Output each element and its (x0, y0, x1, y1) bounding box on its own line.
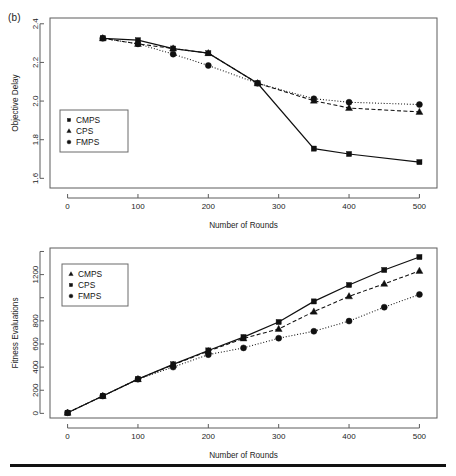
data-point-circle (241, 345, 247, 351)
data-point-square (417, 160, 422, 165)
legend-marker-cmps (67, 118, 70, 121)
data-point-triangle (416, 267, 423, 273)
y-tick-label: 2.4 (32, 18, 41, 30)
data-point-circle (346, 318, 352, 324)
x-tick-label: 500 (413, 432, 427, 441)
data-point-triangle (381, 280, 388, 286)
data-point-circle (311, 328, 317, 334)
data-point-square (276, 319, 281, 324)
y-tick-label: 0 (32, 411, 41, 416)
y-tick-label: 1.6 (32, 172, 41, 184)
data-point-square (346, 151, 351, 156)
data-point-square (67, 118, 70, 121)
legend-label-cmps: CMPS (78, 269, 103, 279)
data-point-circle (416, 102, 422, 108)
y-axis-title: Fitness Evaluations (11, 298, 20, 369)
x-tick-label: 200 (202, 202, 216, 211)
y-tick-label: 200 (32, 383, 41, 397)
x-tick-label: 400 (342, 432, 356, 441)
y-tick-label: 600 (32, 337, 41, 351)
y-tick-label: 400 (32, 360, 41, 374)
x-tick-label: 100 (131, 202, 145, 211)
y-tick-label: 2.2 (32, 56, 41, 68)
data-point-square (241, 334, 246, 339)
data-point-square (311, 146, 316, 151)
x-tick-label: 0 (65, 202, 70, 211)
legend-label-cps: CPS (76, 126, 94, 136)
x-tick-label: 300 (272, 202, 286, 211)
data-point-circle (65, 410, 71, 416)
legend-label-fmps: FMPS (76, 137, 100, 147)
series-markers-fmps (100, 35, 423, 107)
chart-panel-objective-delay: (b) 1.61.82.02.22.40100200300400500Numbe… (0, 0, 456, 238)
legend-marker-fmps (67, 140, 71, 144)
fitness-evaluations-chart: 020040060080012000100200300400500Number … (0, 238, 456, 476)
data-point-circle (170, 364, 176, 370)
y-tick-label: 800 (32, 314, 41, 328)
series-line-fmps (103, 38, 420, 104)
legend-label-fmps: FMPS (78, 291, 102, 301)
data-point-square (69, 283, 72, 286)
series-line-cps (103, 38, 420, 112)
y-tick-label: 1200 (32, 265, 41, 283)
data-point-circle (205, 63, 211, 69)
legend-marker-cps (69, 283, 72, 286)
series-line-cmps (103, 38, 420, 162)
x-tick-label: 500 (413, 202, 427, 211)
data-point-circle (276, 335, 282, 341)
x-tick-label: 400 (342, 202, 356, 211)
footer-rule (10, 464, 446, 467)
series-markers-cmps (100, 36, 422, 165)
data-point-circle (346, 99, 352, 105)
y-tick-label: 2.0 (32, 95, 41, 107)
data-point-square (346, 282, 351, 287)
data-point-circle (67, 140, 71, 144)
y-tick-label: 1.8 (32, 134, 41, 146)
chart-panel-fitness-evaluations: 020040060080012000100200300400500Number … (0, 238, 456, 476)
x-axis-title: Number of Rounds (209, 221, 278, 230)
data-point-circle (135, 376, 141, 382)
data-point-square (311, 299, 316, 304)
data-point-circle (255, 80, 261, 86)
objective-delay-chart: 1.61.82.02.22.40100200300400500Number of… (0, 0, 456, 238)
data-point-square (382, 267, 387, 272)
data-point-circle (100, 35, 106, 41)
data-point-circle (381, 304, 387, 310)
data-point-circle (416, 291, 422, 297)
data-point-circle (69, 294, 73, 298)
y-axis-title: Objective Delay (11, 73, 20, 131)
series-markers-cps (99, 35, 423, 115)
x-tick-label: 0 (65, 432, 70, 441)
series-line-fmps (68, 294, 420, 412)
legend-marker-fmps (69, 294, 73, 298)
legend-label-cps: CPS (78, 280, 96, 290)
plot-frame (50, 18, 437, 188)
data-point-circle (100, 393, 106, 399)
legend-label-cmps: CMPS (76, 115, 101, 125)
data-point-circle (311, 96, 317, 102)
figure-root: (b) 1.61.82.02.22.40100200300400500Numbe… (0, 0, 456, 476)
data-point-circle (170, 51, 176, 57)
x-axis-title: Number of Rounds (209, 451, 278, 460)
x-tick-label: 300 (272, 432, 286, 441)
x-tick-label: 200 (202, 432, 216, 441)
data-point-square (417, 254, 422, 259)
series-markers-fmps (65, 291, 423, 415)
data-point-triangle (275, 325, 282, 331)
data-point-circle (135, 41, 141, 47)
data-point-circle (205, 352, 211, 358)
x-tick-label: 100 (131, 432, 145, 441)
